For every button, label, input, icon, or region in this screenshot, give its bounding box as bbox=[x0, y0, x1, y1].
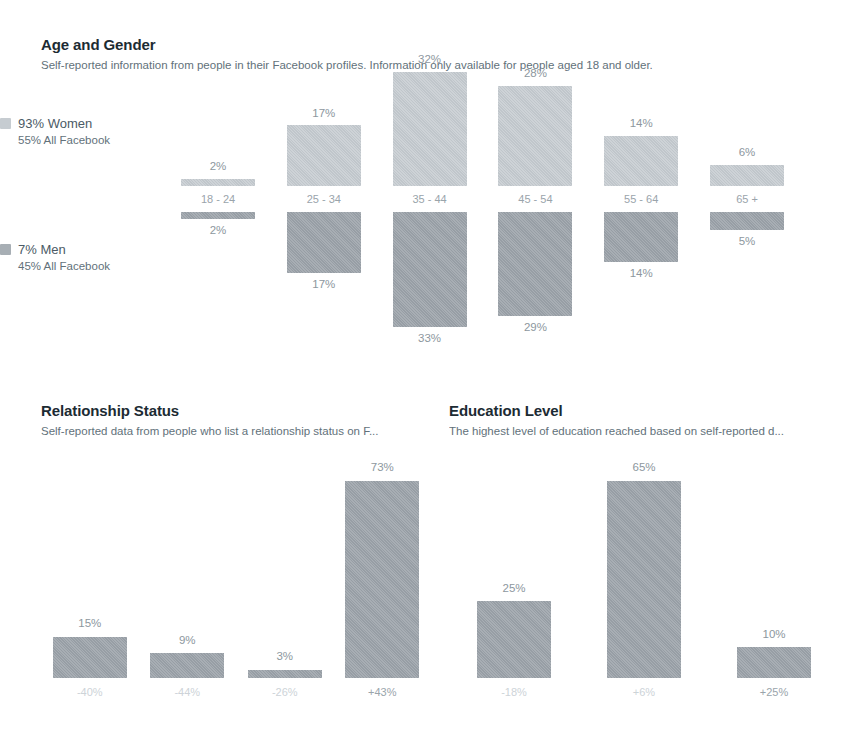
relationship-x-labels: -40%-44%-26%+43% bbox=[41, 680, 431, 704]
women-bar[interactable] bbox=[181, 179, 255, 186]
education-chart: 25%65%10% -18%+6%+25% bbox=[449, 454, 839, 704]
women-bar-group: 28% bbox=[492, 54, 578, 186]
age-range-label: 55 - 64 bbox=[598, 186, 684, 212]
insights-page: Age and Gender Self-reported information… bbox=[0, 0, 859, 743]
x-axis-label: -18% bbox=[449, 686, 579, 698]
men-swatch-icon bbox=[0, 244, 11, 255]
women-bar[interactable] bbox=[710, 165, 784, 186]
bar[interactable] bbox=[150, 653, 224, 678]
men-bar-group: 14% bbox=[598, 212, 684, 344]
men-bar-group: 17% bbox=[281, 212, 367, 344]
women-bar[interactable] bbox=[498, 86, 572, 186]
men-bar[interactable] bbox=[498, 212, 572, 316]
women-bar-group: 14% bbox=[598, 54, 684, 186]
bar-value-label: 25% bbox=[502, 583, 525, 595]
age-column: 17%25 - 3417% bbox=[281, 54, 367, 354]
age-column: 2%18 - 242% bbox=[175, 54, 261, 354]
bar-column: 73% bbox=[334, 462, 432, 678]
women-bar-group: 32% bbox=[387, 54, 473, 186]
legend-women: 93% Women 55% All Facebook bbox=[0, 116, 175, 146]
women-bar-group: 2% bbox=[175, 54, 261, 186]
bar-column: 25% bbox=[449, 462, 579, 678]
bar[interactable] bbox=[53, 637, 127, 678]
men-value-label: 29% bbox=[524, 322, 547, 334]
relationship-status-section: Relationship Status Self-reported data f… bbox=[41, 402, 431, 437]
x-axis-label: +25% bbox=[709, 686, 839, 698]
bar-column: 10% bbox=[709, 462, 839, 678]
x-axis-label: -44% bbox=[139, 686, 237, 698]
bar-value-label: 73% bbox=[371, 462, 394, 474]
education-bars: 25%65%10% bbox=[449, 462, 839, 678]
bar[interactable] bbox=[248, 670, 322, 678]
bar-value-label: 65% bbox=[632, 462, 655, 474]
legend-women-label: 93% Women bbox=[18, 116, 92, 131]
bar-column: 65% bbox=[579, 462, 709, 678]
age-range-label: 65 + bbox=[704, 186, 790, 212]
age-gender-title: Age and Gender bbox=[41, 36, 831, 53]
women-value-label: 28% bbox=[524, 68, 547, 80]
age-column: 14%55 - 6414% bbox=[598, 54, 684, 354]
legend-men: 7% Men 45% All Facebook bbox=[0, 242, 175, 272]
legend-men-label: 7% Men bbox=[18, 242, 66, 257]
relationship-chart: 15%9%3%73% -40%-44%-26%+43% bbox=[41, 454, 431, 704]
men-value-label: 2% bbox=[210, 225, 227, 237]
women-value-label: 6% bbox=[739, 147, 756, 159]
men-bar[interactable] bbox=[604, 212, 678, 262]
bar[interactable] bbox=[607, 481, 681, 679]
men-value-label: 14% bbox=[630, 268, 653, 280]
age-range-label: 18 - 24 bbox=[175, 186, 261, 212]
age-gender-chart: 93% Women 55% All Facebook 7% Men 45% Al… bbox=[0, 54, 790, 354]
age-column: 28%45 - 5429% bbox=[492, 54, 578, 354]
education-title: Education Level bbox=[449, 402, 839, 419]
women-value-label: 14% bbox=[630, 118, 653, 130]
age-range-label: 45 - 54 bbox=[492, 186, 578, 212]
age-gender-columns: 2%18 - 242%17%25 - 3417%32%35 - 4433%28%… bbox=[175, 54, 790, 354]
x-axis-label: -26% bbox=[236, 686, 334, 698]
age-column: 6%65 +5% bbox=[704, 54, 790, 354]
men-value-label: 33% bbox=[418, 333, 441, 345]
bar[interactable] bbox=[345, 481, 419, 679]
education-level-section: Education Level The highest level of edu… bbox=[449, 402, 839, 437]
women-bar[interactable] bbox=[604, 136, 678, 186]
bar[interactable] bbox=[737, 647, 811, 678]
men-bar-group: 33% bbox=[387, 212, 473, 344]
legend-men-sublabel: 45% All Facebook bbox=[18, 260, 175, 272]
men-bar-group: 29% bbox=[492, 212, 578, 344]
relationship-subtitle: Self-reported data from people who list … bbox=[41, 425, 431, 437]
women-bar[interactable] bbox=[393, 72, 467, 186]
men-bar-group: 2% bbox=[175, 212, 261, 344]
age-range-label: 25 - 34 bbox=[281, 186, 367, 212]
x-axis-label: +6% bbox=[579, 686, 709, 698]
bar-value-label: 10% bbox=[762, 629, 785, 641]
legend-women-sublabel: 55% All Facebook bbox=[18, 134, 175, 146]
bar-column: 9% bbox=[139, 462, 237, 678]
education-x-labels: -18%+6%+25% bbox=[449, 680, 839, 704]
men-bar-group: 5% bbox=[704, 212, 790, 344]
age-range-label: 35 - 44 bbox=[387, 186, 473, 212]
education-subtitle: The highest level of education reached b… bbox=[449, 425, 839, 437]
x-axis-label: +43% bbox=[334, 686, 432, 698]
men-value-label: 17% bbox=[312, 279, 335, 291]
women-value-label: 32% bbox=[418, 54, 441, 66]
bar-value-label: 15% bbox=[78, 618, 101, 630]
men-bar[interactable] bbox=[181, 212, 255, 219]
women-swatch-icon bbox=[0, 118, 11, 129]
bar[interactable] bbox=[477, 601, 551, 678]
women-value-label: 2% bbox=[210, 161, 227, 173]
men-value-label: 5% bbox=[739, 236, 756, 248]
men-bar[interactable] bbox=[287, 212, 361, 273]
bar-value-label: 9% bbox=[179, 635, 196, 647]
women-bar[interactable] bbox=[287, 125, 361, 186]
women-bar-group: 17% bbox=[281, 54, 367, 186]
bar-column: 15% bbox=[41, 462, 139, 678]
bar-value-label: 3% bbox=[276, 651, 293, 663]
bar-column: 3% bbox=[236, 462, 334, 678]
men-bar[interactable] bbox=[393, 212, 467, 327]
relationship-bars: 15%9%3%73% bbox=[41, 462, 431, 678]
age-column: 32%35 - 4433% bbox=[387, 54, 473, 354]
x-axis-label: -40% bbox=[41, 686, 139, 698]
women-bar-group: 6% bbox=[704, 54, 790, 186]
men-bar[interactable] bbox=[710, 212, 784, 230]
women-value-label: 17% bbox=[312, 108, 335, 120]
relationship-title: Relationship Status bbox=[41, 402, 431, 419]
